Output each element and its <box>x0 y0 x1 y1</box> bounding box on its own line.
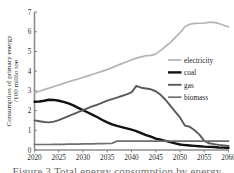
x-axis-ticks: 202020252030203520402045205020552060 <box>27 150 234 162</box>
y-axis-title: Consumption of primary energy/100 millio… <box>5 35 21 127</box>
figure-caption: Figure 3 Total energy consumption by ene… <box>0 164 234 173</box>
series-line-biomass <box>35 141 229 144</box>
y-tick-label: 6 <box>28 28 32 36</box>
y-tick-label: 4 <box>28 68 32 76</box>
series-lines <box>35 22 229 148</box>
x-tick-label: 2040 <box>124 154 139 162</box>
legend-label-gas: gas <box>184 81 194 90</box>
chart-legend: electricitycoalgasbiomass <box>168 56 214 102</box>
legend-label-electricity: electricity <box>184 56 214 65</box>
line-chart: Consumption of primary energy/100 millio… <box>0 0 234 173</box>
y-axis-title-line2: /100 millio toe <box>12 60 20 102</box>
y-tick-label: 2 <box>28 107 32 115</box>
y-tick-label: 3 <box>28 87 32 95</box>
legend-label-biomass: biomass <box>184 93 208 102</box>
y-tick-label: 1 <box>28 127 32 135</box>
chart-figure: Consumption of primary energy/100 millio… <box>0 0 234 173</box>
x-tick-label: 2030 <box>76 154 91 162</box>
y-axis-ticks: 01234567 <box>28 9 37 155</box>
y-axis-title-line1: Consumption of primary energy <box>5 35 13 127</box>
y-tick-label: 5 <box>28 48 32 56</box>
x-tick-label: 2060 <box>221 154 234 162</box>
legend-label-coal: coal <box>184 68 196 77</box>
y-tick-label: 7 <box>28 9 32 17</box>
x-tick-label: 2025 <box>52 154 67 162</box>
x-tick-label: 2035 <box>100 154 115 162</box>
x-tick-label: 2045 <box>149 154 164 162</box>
x-tick-label: 2020 <box>27 154 42 162</box>
x-tick-label: 2050 <box>173 154 188 162</box>
x-tick-label: 2055 <box>197 154 212 162</box>
